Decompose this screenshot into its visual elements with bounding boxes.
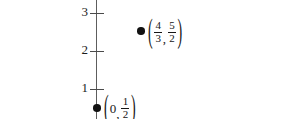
fraction-one-half: 1 2 <box>121 96 129 119</box>
coordinate-separator: , <box>116 107 121 119</box>
y-axis-tick-1 <box>90 89 104 90</box>
y-axis-tick-label-1: 1 <box>74 81 88 94</box>
fraction-denominator: 3 <box>154 33 162 45</box>
clipped-edge-glyph: ( <box>292 24 295 43</box>
y-axis-tick-label-3: 3 <box>74 5 88 18</box>
open-paren: ( <box>148 15 153 49</box>
y-axis-tick-3 <box>90 13 104 14</box>
close-paren: ) <box>177 15 182 49</box>
y-axis-line <box>96 0 97 119</box>
fraction-denominator: 2 <box>122 109 130 120</box>
y-axis-tick-label-2: 2 <box>74 43 88 56</box>
y-axis-tick-2 <box>90 51 104 52</box>
data-point-upper-label: ( 4 3 , 5 2 ) <box>147 18 183 46</box>
data-point-origin-half <box>93 104 101 112</box>
close-paren: ) <box>131 91 136 119</box>
fraction-numerator: 5 <box>168 20 176 32</box>
math-figure: 3 2 1 ( 4 3 , 5 2 ) ( 0 , 1 2 ) <box>0 0 298 119</box>
data-point-upper <box>137 27 145 35</box>
fraction-five-halves: 5 2 <box>168 20 176 44</box>
fraction-four-thirds: 4 3 <box>154 20 162 44</box>
coordinate-separator: , <box>163 32 168 46</box>
open-paren: ( <box>104 91 109 119</box>
fraction-numerator: 1 <box>122 96 130 108</box>
fraction-denominator: 2 <box>168 33 176 45</box>
data-point-origin-half-label: ( 0 , 1 2 ) <box>103 95 137 119</box>
fraction-numerator: 4 <box>154 20 162 32</box>
